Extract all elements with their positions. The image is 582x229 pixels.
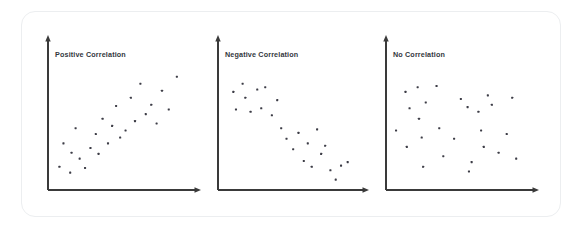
scatter-point [421,136,423,138]
scatter-panel-group: Positive CorrelationNegative Correlation… [0,0,582,229]
scatter-point [477,111,479,113]
y-axis-arrowhead-icon [383,35,388,42]
scatter-points [395,85,517,173]
scatter-point [436,85,438,87]
scatter-panel-3: No Correlation [0,0,582,229]
scatter-point [498,152,500,154]
scatter-point [406,146,408,148]
scatter-point [467,106,469,108]
scatter-point [395,129,397,131]
scatter-point [404,91,406,93]
scatter-point [438,127,440,129]
x-axis-arrowhead-icon [533,187,540,192]
scatter-point [417,86,419,88]
scatter-point [409,107,411,109]
scatter-point [491,104,493,106]
scatter-point [422,166,424,168]
correlation-figure: Positive CorrelationNegative Correlation… [0,0,582,229]
scatter-point [442,155,444,157]
scatter-point [453,138,455,140]
scatter-point [483,146,485,148]
scatter-point [515,158,517,160]
scatter-point [506,133,508,135]
scatter-point [487,94,489,96]
scatter-point [511,97,513,99]
scatter-point [468,170,470,172]
panel-title: No Correlation [393,50,445,59]
scatter-point [418,118,420,120]
scatter-point [480,129,482,131]
scatter-point [460,98,462,100]
scatter-point [471,161,473,163]
scatter-point [425,101,427,103]
